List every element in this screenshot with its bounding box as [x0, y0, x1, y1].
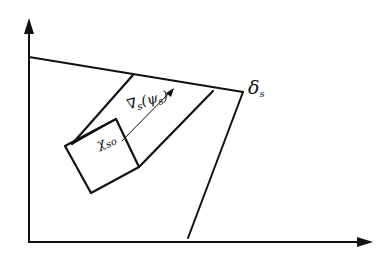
- delta-symbol: δ: [248, 76, 259, 98]
- inner-square: [65, 119, 139, 193]
- delta-subscript: s: [259, 88, 264, 99]
- top-boundary-line: [29, 57, 243, 92]
- right-boundary-line: [188, 92, 243, 238]
- y-axis-arrow-icon: [24, 18, 34, 34]
- delta-s-label: δs: [248, 76, 265, 99]
- x-axis-arrow-icon: [357, 237, 373, 247]
- diagram-canvas: [0, 0, 387, 265]
